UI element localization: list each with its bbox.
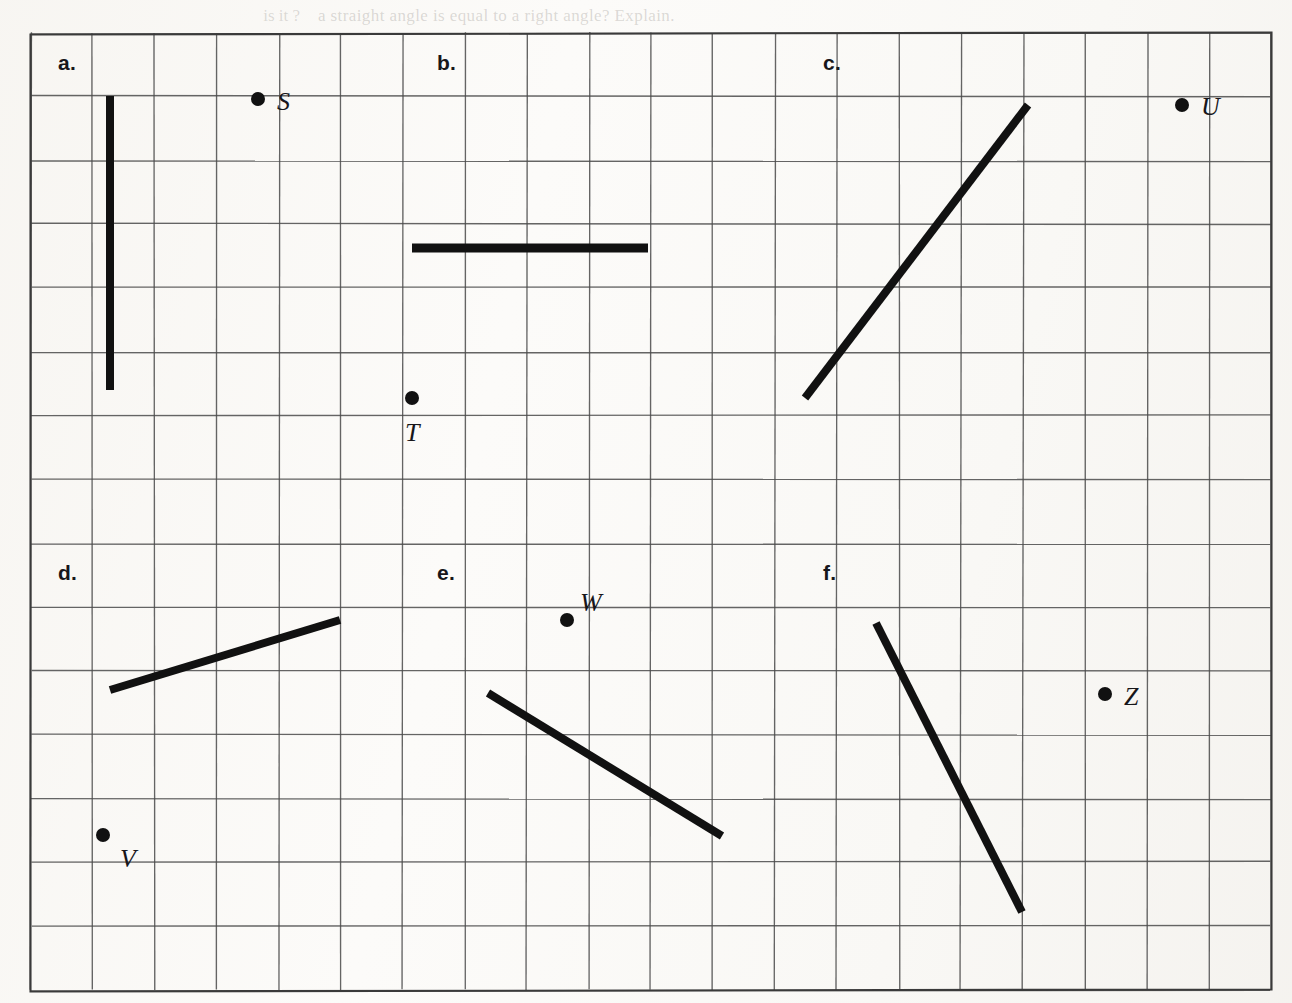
point-Z-label: Z xyxy=(1124,684,1138,710)
segment-f xyxy=(876,623,1022,912)
part-label-c: c. xyxy=(823,52,841,73)
point-S-dot xyxy=(251,92,265,106)
grid-line-vertical xyxy=(1022,33,1024,991)
grid-line-horizontal xyxy=(31,161,1271,162)
point-S-label: S xyxy=(277,89,290,115)
segment-e xyxy=(488,693,722,836)
part-label-e: e. xyxy=(437,562,455,583)
part-label-b: b. xyxy=(437,52,456,73)
segments-group xyxy=(110,96,1028,912)
grid-line-vertical xyxy=(774,33,775,990)
point-W-dot xyxy=(560,613,574,627)
worksheet-page: is it ? a straight angle is equal to a r… xyxy=(0,0,1292,1003)
grid-line-vertical xyxy=(836,33,837,990)
grid-line-vertical xyxy=(650,33,651,990)
grid-lines-group xyxy=(30,32,1272,991)
grid-line-horizontal xyxy=(32,925,1270,926)
point-T-label: T xyxy=(405,420,419,446)
points-group xyxy=(96,92,1189,842)
grid-line-vertical xyxy=(960,33,962,990)
grid-line-vertical xyxy=(279,33,280,990)
point-V-dot xyxy=(96,828,110,842)
segment-c xyxy=(805,105,1028,398)
point-V-label: V xyxy=(120,846,136,872)
point-W-label: W xyxy=(580,590,602,616)
grid-line-vertical xyxy=(589,32,590,989)
part-label-a: a. xyxy=(58,52,76,73)
grid-line-horizontal xyxy=(30,415,1271,416)
grid-diagram xyxy=(0,0,1292,1003)
grid-line-vertical xyxy=(1147,32,1148,989)
part-label-f: f. xyxy=(823,562,836,583)
segment-d xyxy=(110,620,340,690)
part-label-d: d. xyxy=(58,562,77,583)
point-U-label: U xyxy=(1201,94,1220,120)
grid-line-vertical xyxy=(526,33,527,990)
point-T-dot xyxy=(405,391,419,405)
grid-line-vertical xyxy=(402,34,403,989)
grid-line-vertical xyxy=(154,33,155,990)
point-Z-dot xyxy=(1098,687,1112,701)
grid-line-horizontal xyxy=(31,861,1270,862)
point-U-dot xyxy=(1175,98,1189,112)
